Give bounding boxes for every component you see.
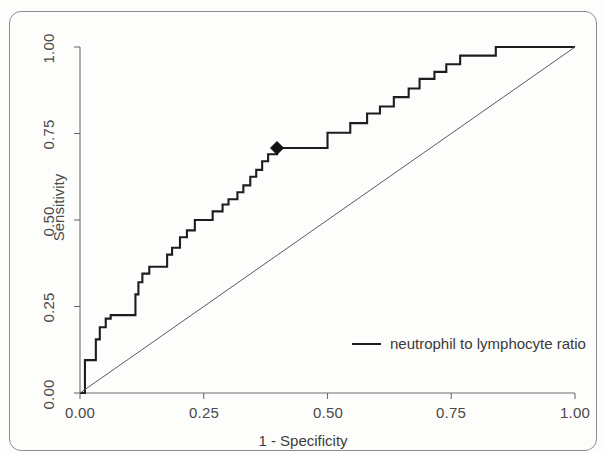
x-tick-label-1: 0.25 xyxy=(182,404,226,421)
roc-plot xyxy=(0,0,606,454)
legend: neutrophil to lymphocyte ratio xyxy=(352,335,586,352)
y-tick-label-1: 0.25 xyxy=(40,286,57,330)
y-tick-label-4: 1.00 xyxy=(40,27,57,71)
x-tick-label-2: 0.50 xyxy=(306,404,350,421)
x-tick-label-4: 1.00 xyxy=(553,404,597,421)
x-tick-label-0: 0.00 xyxy=(58,404,102,421)
y-tick-label-0: 0.00 xyxy=(40,373,57,417)
marker-optimal-cutoff xyxy=(271,142,284,155)
roc-figure: 0.00 0.25 0.50 0.75 1.00 0.00 0.25 0.50 … xyxy=(0,0,606,454)
x-tick-label-3: 0.75 xyxy=(429,404,473,421)
y-axis-label: Sensitivity xyxy=(50,148,67,268)
legend-label: neutrophil to lymphocyte ratio xyxy=(390,335,586,352)
legend-line-swatch xyxy=(352,343,381,345)
x-axis-label: 1 - Specificity xyxy=(0,432,606,449)
